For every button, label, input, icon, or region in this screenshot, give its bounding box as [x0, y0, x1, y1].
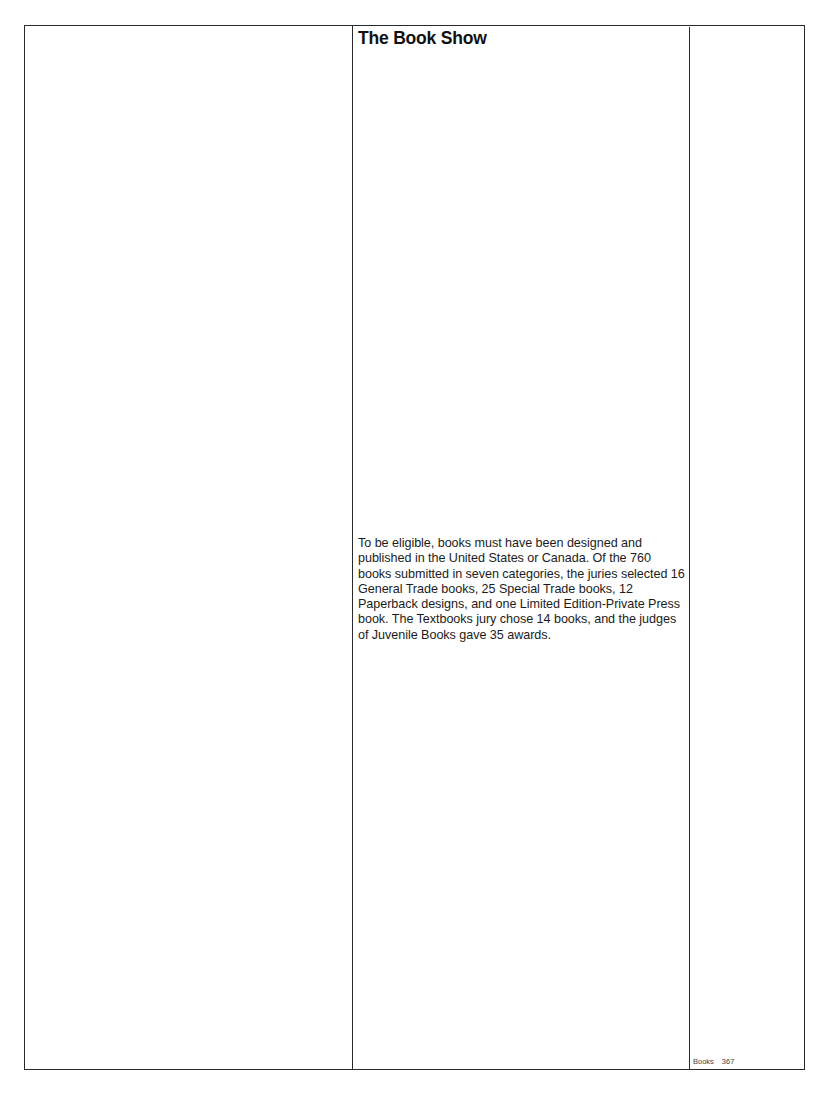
left-column-blank [25, 26, 351, 1069]
column-divider [352, 25, 353, 1070]
column-divider [689, 27, 690, 1070]
page-title: The Book Show [358, 28, 487, 49]
margin-column: Books367 [691, 27, 804, 1069]
folio-page-number: 367 [722, 1057, 735, 1066]
folio-section: Books [693, 1057, 714, 1066]
body-paragraph: To be eligible, books must have been des… [358, 536, 686, 643]
folio: Books367 [693, 1057, 734, 1066]
main-text-column: The Book Show To be eligible, books must… [354, 26, 688, 1069]
